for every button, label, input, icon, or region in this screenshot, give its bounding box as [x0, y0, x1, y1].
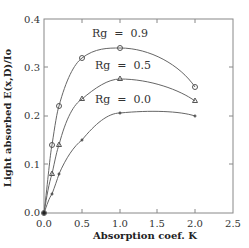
annotation-rg-0.0: Rg = 0.0 [95, 93, 151, 106]
x-axis-title: Absorption coef. K [92, 230, 197, 241]
y-tick-label: 0.0 [24, 207, 40, 218]
y-tick-label: 0.3 [24, 62, 40, 73]
x-tick-label: 1.5 [149, 218, 165, 229]
annotation-rg-0.5: Rg = 0.5 [95, 59, 151, 72]
x-ticks [82, 19, 195, 213]
curve-rg-0.9 [44, 48, 195, 213]
curve-rg-0.0 [44, 111, 195, 213]
annotation-rg-0.9: Rg = 0.9 [92, 27, 148, 40]
plot-frame [44, 19, 233, 213]
x-tick-label: 1.0 [112, 218, 128, 229]
x-tick-label: 0.0 [36, 218, 52, 229]
y-tick-label: 0.2 [24, 110, 40, 121]
origin-marker [42, 211, 46, 215]
x-tick-label: 2.5 [225, 218, 241, 229]
markers-rg-0.0 [51, 112, 197, 196]
y-tick-label: 0.1 [24, 159, 40, 170]
chart: 0.0 0.5 1.0 1.5 2.0 2.5 0.0 0.1 0.2 0.3 … [0, 0, 249, 248]
y-axis-title: Light absorbed E(x,D)/Io [2, 49, 14, 188]
x-tick-label: 0.5 [74, 218, 90, 229]
y-tick-label: 0.4 [24, 14, 40, 25]
markers-rg-0.5 [50, 76, 198, 176]
x-tick-label: 2.0 [187, 218, 203, 229]
